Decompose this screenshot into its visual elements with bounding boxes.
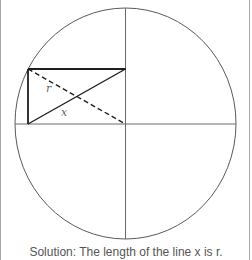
circle-diagram: r x (0, 0, 252, 260)
solution-caption: Solution: The length of the line x is r. (0, 245, 252, 259)
diagram-frame: r x Solution: The length of the line x i… (0, 0, 252, 260)
label-x: x (61, 106, 68, 119)
label-r: r (46, 82, 52, 95)
